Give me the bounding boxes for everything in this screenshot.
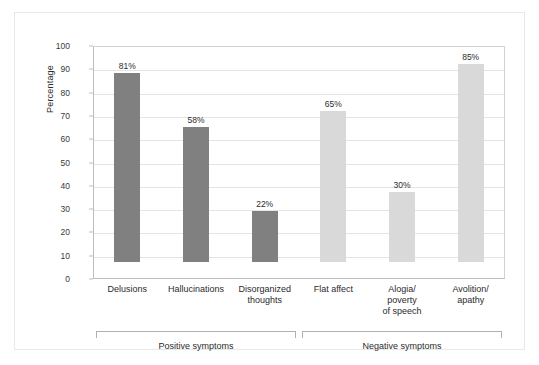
- y-tick-mark: [89, 46, 93, 47]
- y-tick-mark: [89, 209, 93, 210]
- gridline: [94, 233, 504, 234]
- gridline: [94, 140, 504, 141]
- gridline: [94, 257, 504, 258]
- y-tick-label: 80: [61, 88, 70, 98]
- chart-figure: Percentage 1009080706050403020100 81%58%…: [14, 12, 525, 350]
- bar: 81%: [114, 73, 140, 262]
- y-tick-mark: [89, 139, 93, 140]
- y-tick-mark: [89, 162, 93, 163]
- y-tick-mark: [89, 115, 93, 116]
- bar-value-label: 65%: [325, 99, 342, 109]
- y-tick-label: 70: [61, 111, 70, 121]
- y-tick-label: 30: [61, 204, 70, 214]
- y-tick-label: 50: [61, 158, 70, 168]
- y-tick-label: 20: [61, 227, 70, 237]
- group-bracket: [302, 331, 503, 338]
- bar: 58%: [183, 127, 209, 262]
- y-tick-label: 10: [61, 251, 70, 261]
- x-tick-label: Avolition/apathy: [428, 284, 514, 306]
- group-label: Negative symptoms: [362, 341, 441, 351]
- bar: 30%: [389, 192, 415, 262]
- gridline: [94, 94, 504, 95]
- bar-value-label: 81%: [119, 61, 136, 71]
- gridline: [94, 187, 504, 188]
- gridline: [94, 164, 504, 165]
- y-tick-mark: [89, 255, 93, 256]
- y-tick-mark: [89, 69, 93, 70]
- plot-area: [93, 46, 505, 279]
- bar-value-label: 85%: [462, 52, 479, 62]
- group-bracket: [96, 331, 297, 338]
- bar: 65%: [320, 111, 346, 262]
- bar: 85%: [458, 64, 484, 262]
- y-tick-mark: [89, 92, 93, 93]
- bar-value-label: 22%: [256, 199, 273, 209]
- y-tick-mark: [89, 185, 93, 186]
- y-tick-label: 100: [56, 41, 70, 51]
- y-tick-mark: [89, 279, 93, 280]
- bar: 22%: [252, 211, 278, 262]
- y-tick-mark: [89, 232, 93, 233]
- group-label: Positive symptoms: [158, 341, 233, 351]
- y-axis-title: Percentage: [45, 99, 55, 113]
- bar-value-label: 30%: [393, 180, 410, 190]
- bar-value-label: 58%: [187, 115, 204, 125]
- gridline: [94, 70, 504, 71]
- y-tick-label: 90: [61, 64, 70, 74]
- y-tick-label: 40: [61, 181, 70, 191]
- y-tick-label: 0: [65, 274, 70, 284]
- gridline: [94, 210, 504, 211]
- gridline: [94, 117, 504, 118]
- y-tick-label: 60: [61, 134, 70, 144]
